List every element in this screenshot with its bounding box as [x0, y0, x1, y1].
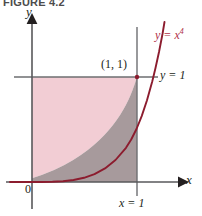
vertical-line-label: x = 1 — [119, 196, 144, 211]
origin-label: 0 — [25, 182, 31, 197]
curve-equation-base: y = x — [155, 28, 180, 42]
intersection-point-marker — [135, 75, 139, 79]
curve-equation-exponent: 4 — [180, 27, 184, 36]
curve-equation-label: y = x4 — [155, 27, 184, 43]
y-axis-label: y — [26, 4, 32, 20]
horizontal-line-label: y = 1 — [160, 68, 185, 83]
point-label-1-1: (1, 1) — [101, 57, 127, 72]
figure-container: FIGURE 4.2 y x 0 (1, 1) y = 1 x = 1 y = … — [0, 0, 202, 216]
x-axis-label: x — [186, 172, 192, 188]
